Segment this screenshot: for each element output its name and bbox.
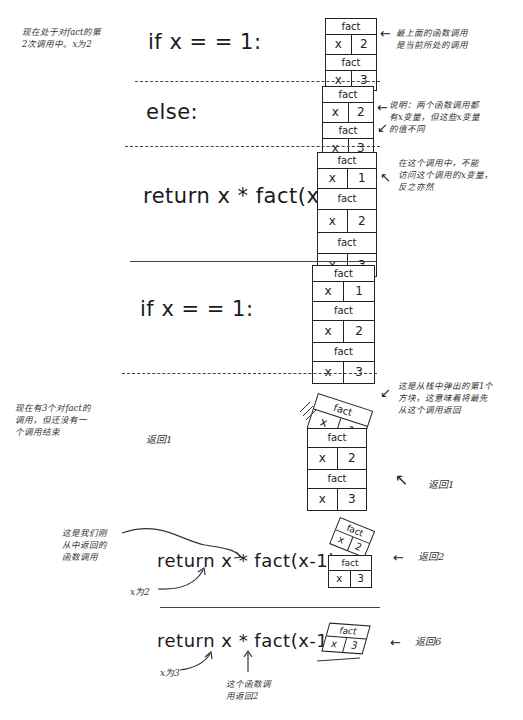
annotation-arrows — [0, 0, 523, 720]
